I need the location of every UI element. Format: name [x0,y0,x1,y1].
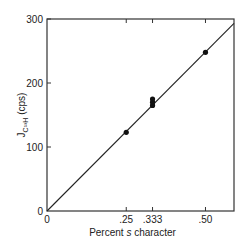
chart: 01002003000.25.333.50Percent s character… [0,0,247,246]
data-point [203,50,208,55]
x-tick-label: 0 [44,214,50,225]
x-tick-label: .25 [119,214,133,225]
data-point [124,130,129,135]
x-tick-label: .50 [199,214,213,225]
x-tick-label: .333 [143,214,163,225]
data-point [150,96,155,101]
y-tick-label: 0 [37,206,43,217]
y-tick-label: 300 [26,14,43,25]
x-axis-label: Percent s character [89,227,176,238]
y-tick-label: 200 [26,78,43,89]
y-axis-label: JC¹³H (cps) [16,93,29,138]
y-tick-label: 100 [26,142,43,153]
